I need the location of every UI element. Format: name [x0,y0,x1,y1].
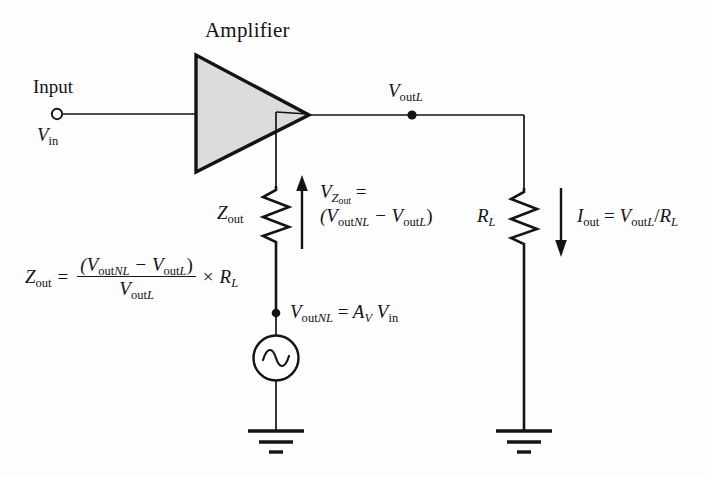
i-out-num-sub-out: out [631,215,647,229]
z-out-formula-z-sub: out [36,276,52,290]
node-dot-vout-l [407,110,416,119]
num-open-v: (V [80,254,98,275]
input-label: Input [33,76,73,97]
i-out-den-sub-l: L [671,215,678,229]
vin-symbol-rhs: V [377,301,389,322]
num-minus-v: − V [134,254,163,275]
v-out-nl-sub-nl: NL [318,311,333,325]
i-out-den-r: R [659,205,671,226]
circuit-schematic-layer [0,0,705,477]
i-out-equation: Iout = VoutL/RL [577,205,678,226]
v-zout-open-paren-v: (V [320,205,338,226]
num-sub1-nl: NL [114,264,129,278]
av-symbol: A [353,301,365,322]
z-out-formula-rl: RL [220,266,239,287]
z-out-formula-numerator: (VoutNL − VoutL) [77,254,196,277]
rl-resistor-zigzag [511,188,537,430]
z-out-formula-equals: = [58,266,69,287]
v-zout-close-paren: ) [426,205,432,226]
v-out-l-subscript-l: L [416,90,423,104]
v-zout-equation-line1: VZout = [320,180,433,204]
r-l-symbol: R [477,205,489,226]
v-zout-minus-v: − V [374,205,403,226]
z-out-formula-r-sub: L [231,276,238,290]
num-sub1-out: out [98,264,114,278]
z-out-formula-lhs: Zout [25,266,52,287]
zout-resistor-zigzag [263,186,289,313]
v-out-nl-equation: VoutNL = AV Vin [290,301,398,322]
v-zout-l2-sub1-out: out [338,214,354,228]
num-sub2-l: L [180,264,187,278]
z-out-formula-r: R [220,266,232,287]
z-out-formula-times: × [203,266,214,287]
v-out-nl-equals: = [338,301,349,322]
v-out-l-subscript-out: out [400,90,416,104]
vzout-arrow-head [296,175,308,191]
v-zout-v-symbol: V [320,181,332,202]
r-l-component-label: RL [477,205,496,226]
input-terminal-circle [52,109,62,119]
z-out-formula-denominator: VoutL [77,277,196,299]
i-out-equals: = [604,205,615,226]
den-sub-out: out [131,288,147,302]
v-zout-subscript-z: Zout [332,191,351,205]
v-out-nl-sub-out: out [302,311,318,325]
r-l-subscript: L [489,215,496,229]
v-in-symbol: V [37,124,49,145]
v-zout-equation: VZout = (VoutNL − VoutL) [320,180,433,228]
z-out-formula: Zout = (VoutNL − VoutL) VoutL × RL [25,254,238,300]
den-sub-l: L [147,288,154,302]
v-out-l-label: VoutL [388,80,423,101]
z-out-component-label: Zout [217,202,244,223]
num-close-paren: ) [187,254,193,275]
v-zout-l2-sub2-out: out [403,214,419,228]
circuit-diagram-figure: Amplifier Input Vin VoutL Zout RL VZout … [0,0,705,477]
av-subscript: V [364,311,372,325]
v-zout-sub-z-symbol: Z [332,191,339,205]
z-out-subscript: out [228,212,244,226]
v-zout-equals: = [356,181,367,202]
i-out-num-v: V [620,205,632,226]
num-sub2-out: out [164,264,180,278]
v-in-subscript: in [49,134,59,148]
i-out-subscript: out [583,215,599,229]
den-v: V [119,278,131,299]
v-zout-l2-sub1-nl: NL [354,214,369,228]
iout-arrow-head [555,240,567,257]
v-out-l-symbol: V [388,80,400,101]
amplifier-title: Amplifier [205,19,290,43]
z-out-symbol: Z [217,202,228,223]
z-out-formula-z: Z [25,266,36,287]
v-in-label: Vin [37,124,58,145]
v-zout-equation-line2: (VoutNL − VoutL) [320,204,433,228]
z-out-formula-fraction: (VoutNL − VoutL) VoutL [77,254,196,300]
vin-subscript-rhs: in [388,311,398,325]
v-out-nl-symbol: V [290,301,302,322]
